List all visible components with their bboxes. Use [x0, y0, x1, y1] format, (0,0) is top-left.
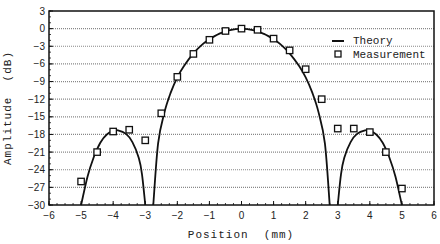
y-tick-label: 0: [39, 23, 45, 34]
measurement-point: [302, 66, 308, 72]
measurement-point: [94, 149, 100, 155]
y-tick-label: −18: [28, 129, 45, 140]
y-tick-label: 3: [39, 6, 45, 17]
y-tick-label: −30: [28, 200, 45, 211]
y-tick-label: −9: [34, 76, 46, 87]
legend-measurement-label: Measurement: [353, 49, 426, 61]
measurement-point: [319, 96, 325, 102]
measurement-point: [206, 37, 212, 43]
theory-line: [338, 130, 402, 205]
x-tick-label: 5: [399, 210, 405, 221]
measurement-point: [142, 137, 148, 143]
y-tick-labels: 30−3−6−9−12−15−18−21−24−27−30: [28, 6, 45, 211]
measurement-point: [399, 185, 405, 191]
x-tick-label: 6: [431, 210, 437, 221]
x-tick-label: 1: [271, 210, 277, 221]
measurement-point: [174, 74, 180, 80]
x-tick-label: −2: [172, 210, 184, 221]
x-tick-label: −3: [140, 210, 152, 221]
measurement-point: [222, 28, 228, 34]
legend-measurement-marker: [335, 51, 341, 57]
x-tick-label: −4: [107, 210, 119, 221]
x-tick-label: −5: [75, 210, 87, 221]
chart: −6−5−4−3−2−10123456 30−3−6−9−12−15−18−21…: [0, 0, 440, 244]
measurement-point: [383, 149, 389, 155]
measurement-point: [335, 125, 341, 131]
theory-line: [81, 130, 145, 205]
measurement-point: [238, 25, 244, 31]
measurement-point: [367, 129, 373, 135]
x-tick-label: 0: [239, 210, 245, 221]
x-tick-label: 3: [335, 210, 341, 221]
y-tick-label: −21: [28, 147, 45, 158]
legend-theory-label: Theory: [353, 35, 393, 47]
y-tick-label: −3: [34, 41, 46, 52]
y-axis-title: Amplitude (dB): [2, 51, 14, 165]
x-axis-title: Position (mm): [188, 229, 294, 241]
x-tick-labels: −6−5−4−3−2−10123456: [43, 210, 437, 221]
measurement-point: [286, 47, 292, 53]
y-tick-label: −12: [28, 94, 45, 105]
measurement-point: [254, 27, 260, 33]
y-tick-label: −24: [28, 164, 45, 175]
x-tick-label: −6: [43, 210, 55, 221]
y-tick-label: −27: [28, 182, 45, 193]
measurement-point: [126, 127, 132, 133]
legend: Theory Measurement: [332, 35, 426, 61]
y-tick-label: −6: [34, 58, 46, 69]
measurement-point: [351, 125, 357, 131]
y-tick-label: −15: [28, 111, 45, 122]
x-tick-label: 4: [367, 210, 373, 221]
measurement-point: [270, 35, 276, 41]
measurement-point: [190, 51, 196, 57]
x-tick-label: 2: [303, 210, 309, 221]
x-tick-label: −1: [204, 210, 216, 221]
measurement-point: [110, 128, 116, 134]
measurement-point: [158, 110, 164, 116]
measurement-point: [78, 178, 84, 184]
